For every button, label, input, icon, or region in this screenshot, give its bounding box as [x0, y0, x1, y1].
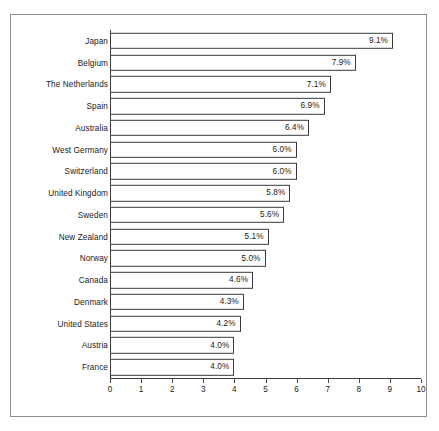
bar-row: Austria4.0%: [0, 335, 439, 357]
bar-value-label: 4.0%: [210, 341, 229, 350]
x-axis-tick: [266, 379, 267, 383]
bar-value-label: 5.0%: [241, 254, 260, 263]
bar: 6.4%: [110, 120, 309, 136]
category-label: Sweden: [78, 210, 108, 219]
category-label: United Kingdom: [48, 189, 108, 198]
x-axis-tick-label: 4: [232, 385, 237, 394]
bar-value-label: 4.6%: [229, 276, 248, 285]
x-axis-tick: [359, 379, 360, 383]
bar-row: Spain6.9%: [0, 95, 439, 117]
bar: 4.0%: [110, 337, 234, 353]
bar: 4.6%: [110, 272, 253, 288]
x-axis-tick-label: 2: [170, 385, 175, 394]
bar-row: West Germany6.0%: [0, 139, 439, 161]
category-label: Spain: [87, 102, 108, 111]
x-axis-tick-label: 0: [108, 385, 113, 394]
bar: 6.0%: [110, 163, 297, 179]
bar-row: New Zealand5.1%: [0, 226, 439, 248]
bar: 6.0%: [110, 141, 297, 157]
plot-area: Japan9.1%Belgium7.9%The Netherlands7.1%S…: [0, 0, 439, 431]
bar: 9.1%: [110, 33, 393, 49]
bar-row: Belgium7.9%: [0, 52, 439, 74]
bar: 4.0%: [110, 359, 234, 375]
bar-row: The Netherlands7.1%: [0, 74, 439, 96]
bar-value-label: 6.0%: [273, 167, 292, 176]
bar-value-label: 4.0%: [210, 363, 229, 372]
bar-value-label: 5.6%: [260, 210, 279, 219]
x-axis-tick: [297, 379, 298, 383]
category-label: Denmark: [74, 297, 108, 306]
category-label: Canada: [79, 276, 108, 285]
bar-value-label: 5.1%: [245, 232, 264, 241]
x-axis-tick: [328, 379, 329, 383]
bar-value-label: 6.0%: [273, 145, 292, 154]
x-axis-tick-label: 5: [263, 385, 268, 394]
x-axis-tick: [203, 379, 204, 383]
x-axis-tick: [172, 379, 173, 383]
bar-row: United Kingdom5.8%: [0, 182, 439, 204]
bar-value-label: 6.9%: [301, 102, 320, 111]
bar-row: Denmark4.3%: [0, 291, 439, 313]
category-label: France: [82, 363, 108, 372]
bar-row: United States4.2%: [0, 313, 439, 335]
bar-value-label: 4.2%: [217, 319, 236, 328]
x-axis-tick: [234, 379, 235, 383]
x-axis-tick-label: 8: [357, 385, 362, 394]
bar-value-label: 4.3%: [220, 297, 239, 306]
category-label: West Germany: [52, 145, 108, 154]
bar-row: France4.0%: [0, 356, 439, 378]
category-label: Belgium: [78, 58, 108, 67]
category-label: Japan: [85, 36, 108, 45]
bar-value-label: 7.1%: [307, 80, 326, 89]
bar: 4.3%: [110, 294, 244, 310]
bar-value-label: 6.4%: [285, 123, 304, 132]
bar-value-label: 7.9%: [332, 58, 351, 67]
x-axis-tick-label: 6: [294, 385, 299, 394]
bar-value-label: 9.1%: [369, 36, 388, 45]
bar: 6.9%: [110, 98, 325, 114]
category-label: Australia: [75, 123, 108, 132]
x-axis-tick-label: 3: [201, 385, 206, 394]
x-axis-tick-label: 10: [416, 385, 425, 394]
x-axis-tick-label: 1: [139, 385, 144, 394]
bar: 5.8%: [110, 185, 290, 201]
bar-row: Norway5.0%: [0, 248, 439, 270]
bar: 5.6%: [110, 207, 284, 223]
category-label: Switzerland: [65, 167, 108, 176]
x-axis-tick-label: 7: [325, 385, 330, 394]
bar-row: Japan9.1%: [0, 30, 439, 52]
bar-chart-figure: Japan9.1%Belgium7.9%The Netherlands7.1%S…: [0, 0, 439, 431]
bar-row: Sweden5.6%: [0, 204, 439, 226]
bar: 7.9%: [110, 54, 356, 70]
category-label: United States: [58, 319, 108, 328]
category-label: New Zealand: [59, 232, 108, 241]
bar: 7.1%: [110, 76, 331, 92]
x-axis-tick: [141, 379, 142, 383]
bar-row: Australia6.4%: [0, 117, 439, 139]
bar: 4.2%: [110, 315, 241, 331]
bar-row: Switzerland6.0%: [0, 161, 439, 183]
bar-value-label: 5.8%: [266, 189, 285, 198]
bar-row: Canada4.6%: [0, 269, 439, 291]
category-label: Norway: [80, 254, 108, 263]
category-label: The Netherlands: [46, 80, 108, 89]
x-axis-tick: [390, 379, 391, 383]
category-label: Austria: [82, 341, 108, 350]
x-axis-tick: [421, 379, 422, 383]
bar: 5.0%: [110, 250, 266, 266]
x-axis-tick: [110, 379, 111, 383]
x-axis-tick-label: 9: [388, 385, 393, 394]
bar: 5.1%: [110, 228, 269, 244]
